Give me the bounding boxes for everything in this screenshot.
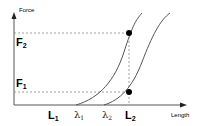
point-F2-L2 <box>126 30 132 36</box>
y-axis-label: Force <box>19 7 35 13</box>
l2-label: L2 <box>125 109 136 122</box>
curve-2 <box>104 13 170 105</box>
x-axis-label: Length <box>171 112 189 118</box>
lambda1-label: λ1 <box>74 109 84 121</box>
f2-label: F2 <box>16 36 27 49</box>
point-F1-L2 <box>126 89 132 95</box>
force-length-diagram: Force Length F2 F1 L1 λ1 λ2 L2 <box>0 0 208 126</box>
x-axis-arrow-icon <box>180 103 187 108</box>
y-axis-arrow-icon <box>12 12 17 19</box>
f1-label: F1 <box>16 77 27 90</box>
l1-label: L1 <box>48 109 59 122</box>
lambda2-label: λ2 <box>102 109 112 121</box>
curve-1 <box>76 13 142 105</box>
